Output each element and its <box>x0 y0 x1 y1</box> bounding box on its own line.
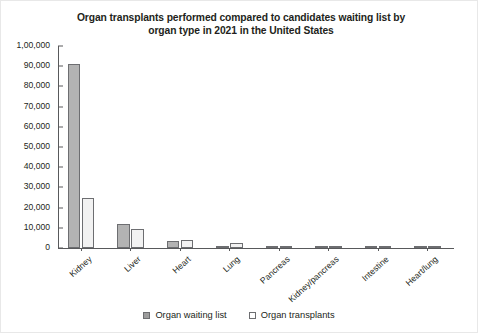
x-axis-tick-mark <box>130 248 131 251</box>
bar-group <box>216 46 243 248</box>
chart-legend: Organ waiting listOrgan transplants <box>1 310 477 320</box>
x-axis-tick-label: Liver <box>122 254 143 274</box>
bar-transplants[interactable] <box>379 246 392 248</box>
legend-swatch-icon <box>249 312 256 319</box>
chart-title-line-1: Organ transplants performed compared to … <box>61 11 421 24</box>
bar-group <box>266 46 293 248</box>
bar-group <box>315 46 342 248</box>
y-axis-tick-label: 0 <box>45 242 50 252</box>
x-axis-tick-mark <box>328 248 329 251</box>
bar-group <box>414 46 441 248</box>
bar-waiting-list[interactable] <box>365 246 378 248</box>
x-axis-tick-mark <box>279 248 280 251</box>
x-axis-tick-label: Heart <box>170 254 192 275</box>
bar-transplants[interactable] <box>230 243 243 248</box>
bar-waiting-list[interactable] <box>266 246 279 248</box>
bar-group <box>167 46 194 248</box>
bar-group <box>117 46 144 248</box>
legend-label: Organ waiting list <box>155 310 226 320</box>
bar-group <box>365 46 392 248</box>
bar-groups <box>58 46 454 248</box>
legend-label: Organ transplants <box>261 310 335 320</box>
x-axis-tick-label: Heart/lung <box>404 254 440 288</box>
plot-area: 010,00020,00030,00040,00050,00060,00070,… <box>58 46 454 248</box>
bar-waiting-list[interactable] <box>315 246 328 248</box>
y-axis-tick-label: 1,00,000 <box>17 40 50 50</box>
chart-title: Organ transplants performed compared to … <box>61 11 421 37</box>
legend-item[interactable]: Organ waiting list <box>143 310 226 320</box>
chart-title-line-2: organ type in 2021 in the United States <box>61 24 421 37</box>
y-axis-tick-label: 80,000 <box>24 80 50 90</box>
x-axis-tick-label: Pancreas <box>258 254 292 286</box>
x-axis-tick-mark <box>378 248 379 251</box>
y-axis-tick-label: 70,000 <box>24 100 50 110</box>
legend-swatch-icon <box>143 312 150 319</box>
bar-waiting-list[interactable] <box>216 246 229 248</box>
y-axis-tick-label: 30,000 <box>24 181 50 191</box>
y-axis-tick-label: 40,000 <box>24 161 50 171</box>
chart-figure: Organ transplants performed compared to … <box>0 0 478 333</box>
x-axis-tick-mark <box>81 248 82 251</box>
x-axis-tick-mark <box>180 248 181 251</box>
bar-group <box>68 46 95 248</box>
y-axis-tick-label: 50,000 <box>24 141 50 151</box>
y-axis-tick-label: 60,000 <box>24 120 50 130</box>
x-axis-tick-label: Intestine <box>360 254 391 283</box>
x-axis-tick-mark <box>427 248 428 251</box>
legend-item[interactable]: Organ transplants <box>249 310 335 320</box>
y-axis-tick-label: 90,000 <box>24 60 50 70</box>
bar-waiting-list[interactable] <box>414 246 427 248</box>
bar-transplants[interactable] <box>131 229 144 248</box>
x-axis-tick-label: Lung <box>221 254 242 274</box>
x-axis-line <box>58 248 454 249</box>
y-axis-tick-label: 20,000 <box>24 201 50 211</box>
x-axis-tick-label: Kidney <box>67 254 93 279</box>
bar-transplants[interactable] <box>181 240 194 248</box>
x-axis-tick-label: Kidney/pancreas <box>287 254 341 304</box>
bar-transplants[interactable] <box>82 198 95 249</box>
bar-transplants[interactable] <box>329 246 342 248</box>
bar-transplants[interactable] <box>428 246 441 248</box>
bar-waiting-list[interactable] <box>167 241 180 248</box>
bar-waiting-list[interactable] <box>68 64 81 248</box>
bar-waiting-list[interactable] <box>117 224 130 248</box>
x-axis-tick-mark <box>229 248 230 251</box>
y-axis-tick-label: 10,000 <box>24 221 50 231</box>
bar-transplants[interactable] <box>280 246 293 248</box>
